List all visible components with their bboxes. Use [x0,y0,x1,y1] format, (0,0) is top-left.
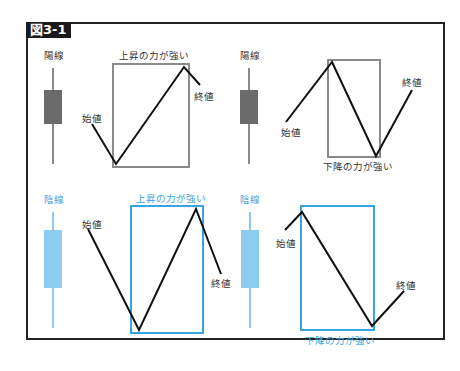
price-path-top-left [92,67,200,164]
open-label-bottom-left: 始値 [82,217,102,231]
box-label-bottom-right: 下降の力が強い [305,333,375,347]
bullish-candle-top-left [44,68,62,164]
candle-label-top-left: 陽線 [44,48,64,62]
box-label-top-left: 上昇の力が強い [119,48,189,62]
candle-label-top-right: 陽線 [240,48,260,62]
bearish-candle-bottom-left [44,212,62,328]
open-label-bottom-right: 始値 [276,236,296,250]
close-label-bottom-right: 終値 [396,278,416,292]
box-label-bottom-left: 上昇の力が強い [136,191,206,205]
candlestick-diagram [0,0,460,371]
close-label-top-right: 終値 [402,75,422,89]
open-label-top-right: 始値 [281,125,301,139]
box-label-top-right: 下降の力が強い [323,159,393,173]
price-path-bottom-right [285,212,404,326]
candle-label-bottom-left: 陰線 [44,192,64,206]
price-path-top-right [286,62,412,156]
candle-label-bottom-right: 陰線 [240,192,260,206]
close-label-top-left: 終値 [194,89,214,103]
bearish-candle-bottom-right [241,212,259,328]
bullish-candle-top-right [240,68,258,164]
open-label-top-left: 始値 [82,111,102,125]
price-path-bottom-left [88,209,221,330]
close-label-bottom-left: 終値 [211,276,231,290]
